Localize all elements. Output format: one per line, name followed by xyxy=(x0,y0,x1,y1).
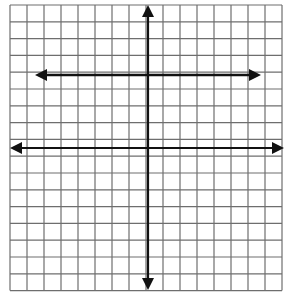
x-axis-left-arrow-icon xyxy=(10,142,22,154)
horizontal-line-right-arrow-icon xyxy=(249,69,261,81)
axes xyxy=(10,5,284,290)
coordinate-grid-figure xyxy=(0,0,286,302)
horizontal-line-left-arrow-icon xyxy=(35,69,47,81)
y-axis-down-arrow-icon xyxy=(142,278,154,290)
coordinate-plane xyxy=(0,0,286,302)
y-axis-up-arrow-icon xyxy=(142,5,154,17)
